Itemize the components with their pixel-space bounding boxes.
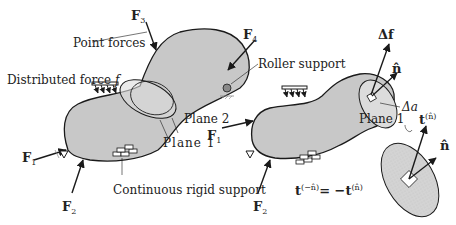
force-f2-right-label: F2: [253, 200, 267, 216]
isolated-plane: [369, 126, 451, 225]
delta-f-label: Δf: [378, 28, 394, 41]
force-f2-arrow: [72, 160, 83, 193]
plane2-label: Plane 2: [184, 113, 229, 125]
pin-support-icon: [55, 150, 68, 158]
traction-label: t(n̂): [419, 113, 436, 126]
force-f3-arrow: [146, 22, 156, 50]
point-forces-label: Point forces: [73, 37, 145, 49]
distributed-force-label: Distributed force f: [7, 74, 119, 86]
continuous-support-label: Continuous rigid support: [113, 184, 266, 196]
force-f3-label: F3: [131, 9, 145, 25]
force-f4-label: F4: [243, 28, 257, 44]
n-hat-bottom-label: n̂: [440, 139, 449, 152]
plane1-right-label: Plane 1: [359, 113, 404, 125]
pin-support-right-icon: [246, 151, 254, 158]
force-f2-label: F2: [62, 200, 76, 216]
force-f1-label: F1: [22, 151, 36, 167]
distributed-force-right-icon: [282, 86, 307, 97]
roller-support-label: Roller support: [258, 58, 346, 70]
force-f1-right-label: F1: [207, 129, 221, 145]
traction-equation: t(−n̂)= −t(n̂): [295, 184, 363, 197]
delta-a-label: Δa: [402, 101, 418, 113]
continuum-body-diagram: F3 Point forces F4 Roller support Distri…: [0, 0, 456, 225]
n-hat-top-label: n̂: [392, 62, 401, 75]
